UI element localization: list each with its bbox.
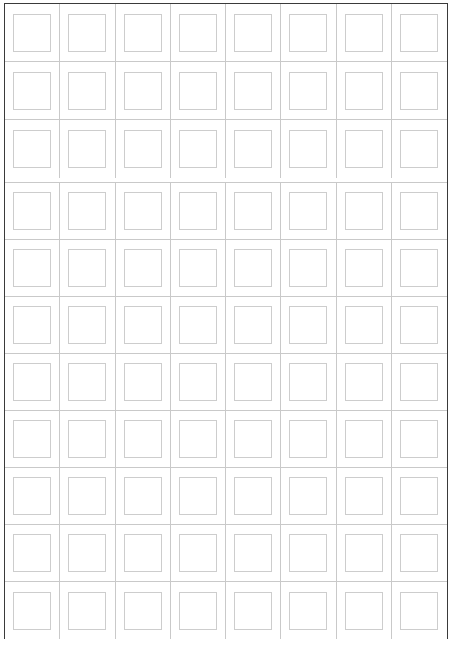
grid-cell[interactable] — [281, 120, 336, 178]
grid-cell[interactable] — [60, 468, 115, 525]
grid-cell[interactable] — [281, 468, 336, 525]
cell-placeholder-square[interactable] — [289, 420, 327, 458]
cell-placeholder-square[interactable] — [234, 477, 272, 515]
cell-placeholder-square[interactable] — [234, 534, 272, 572]
grid-cell[interactable] — [5, 525, 60, 582]
grid-cell[interactable] — [337, 354, 392, 411]
cell-placeholder-square[interactable] — [124, 477, 162, 515]
cell-placeholder-square[interactable] — [13, 420, 51, 458]
grid-cell[interactable] — [116, 297, 171, 354]
grid-cell[interactable] — [281, 582, 336, 639]
cell-placeholder-square[interactable] — [400, 420, 438, 458]
grid-cell[interactable] — [337, 411, 392, 468]
cell-placeholder-square[interactable] — [179, 14, 217, 52]
grid-cell[interactable] — [5, 4, 60, 62]
cell-placeholder-square[interactable] — [345, 592, 383, 630]
cell-placeholder-square[interactable] — [345, 534, 383, 572]
cell-placeholder-square[interactable] — [234, 72, 272, 110]
grid-cell[interactable] — [171, 468, 226, 525]
grid-cell[interactable] — [337, 120, 392, 178]
cell-placeholder-square[interactable] — [124, 306, 162, 344]
grid-cell[interactable] — [116, 411, 171, 468]
cell-placeholder-square[interactable] — [289, 534, 327, 572]
cell-placeholder-square[interactable] — [400, 477, 438, 515]
cell-placeholder-square[interactable] — [289, 363, 327, 401]
grid-cell[interactable] — [392, 183, 447, 240]
grid-cell[interactable] — [171, 525, 226, 582]
grid-cell[interactable] — [5, 240, 60, 297]
cell-placeholder-square[interactable] — [179, 249, 217, 287]
cell-placeholder-square[interactable] — [345, 14, 383, 52]
cell-placeholder-square[interactable] — [13, 534, 51, 572]
cell-placeholder-square[interactable] — [234, 306, 272, 344]
grid-cell[interactable] — [171, 297, 226, 354]
grid-cell[interactable] — [392, 411, 447, 468]
grid-cell[interactable] — [60, 297, 115, 354]
cell-placeholder-square[interactable] — [234, 14, 272, 52]
cell-placeholder-square[interactable] — [179, 72, 217, 110]
grid-cell[interactable] — [226, 297, 281, 354]
cell-placeholder-square[interactable] — [234, 420, 272, 458]
grid-cell[interactable] — [171, 120, 226, 178]
grid-cell[interactable] — [116, 468, 171, 525]
cell-placeholder-square[interactable] — [289, 192, 327, 230]
grid-cell[interactable] — [337, 297, 392, 354]
cell-placeholder-square[interactable] — [124, 72, 162, 110]
cell-placeholder-square[interactable] — [68, 249, 106, 287]
grid-cell[interactable] — [337, 183, 392, 240]
grid-cell[interactable] — [226, 354, 281, 411]
grid-cell[interactable] — [60, 183, 115, 240]
grid-cell[interactable] — [226, 62, 281, 120]
cell-placeholder-square[interactable] — [13, 306, 51, 344]
grid-cell[interactable] — [60, 62, 115, 120]
grid-cell[interactable] — [116, 4, 171, 62]
cell-placeholder-square[interactable] — [179, 534, 217, 572]
grid-cell[interactable] — [226, 4, 281, 62]
cell-placeholder-square[interactable] — [68, 14, 106, 52]
grid-cell[interactable] — [116, 240, 171, 297]
cell-placeholder-square[interactable] — [289, 592, 327, 630]
cell-placeholder-square[interactable] — [124, 592, 162, 630]
cell-placeholder-square[interactable] — [13, 130, 51, 168]
cell-placeholder-square[interactable] — [234, 130, 272, 168]
grid-cell[interactable] — [392, 354, 447, 411]
cell-placeholder-square[interactable] — [13, 192, 51, 230]
grid-cell[interactable] — [60, 354, 115, 411]
cell-placeholder-square[interactable] — [68, 420, 106, 458]
cell-placeholder-square[interactable] — [179, 306, 217, 344]
grid-cell[interactable] — [171, 582, 226, 639]
grid-cell[interactable] — [337, 525, 392, 582]
cell-placeholder-square[interactable] — [400, 14, 438, 52]
cell-placeholder-square[interactable] — [13, 249, 51, 287]
grid-cell[interactable] — [392, 582, 447, 639]
grid-cell[interactable] — [60, 582, 115, 639]
cell-placeholder-square[interactable] — [13, 363, 51, 401]
grid-cell[interactable] — [5, 120, 60, 178]
cell-placeholder-square[interactable] — [345, 363, 383, 401]
cell-placeholder-square[interactable] — [68, 363, 106, 401]
cell-placeholder-square[interactable] — [68, 592, 106, 630]
cell-placeholder-square[interactable] — [345, 420, 383, 458]
grid-cell[interactable] — [171, 62, 226, 120]
grid-cell[interactable] — [171, 411, 226, 468]
grid-cell[interactable] — [392, 4, 447, 62]
cell-placeholder-square[interactable] — [289, 72, 327, 110]
grid-cell[interactable] — [60, 4, 115, 62]
grid-cell[interactable] — [5, 468, 60, 525]
grid-cell[interactable] — [116, 62, 171, 120]
grid-cell[interactable] — [392, 120, 447, 178]
cell-placeholder-square[interactable] — [400, 192, 438, 230]
cell-placeholder-square[interactable] — [68, 192, 106, 230]
cell-placeholder-square[interactable] — [124, 192, 162, 230]
grid-cell[interactable] — [392, 297, 447, 354]
cell-placeholder-square[interactable] — [345, 72, 383, 110]
cell-placeholder-square[interactable] — [179, 192, 217, 230]
grid-cell[interactable] — [281, 297, 336, 354]
grid-cell[interactable] — [392, 240, 447, 297]
cell-placeholder-square[interactable] — [400, 130, 438, 168]
grid-cell[interactable] — [226, 468, 281, 525]
cell-placeholder-square[interactable] — [289, 130, 327, 168]
cell-placeholder-square[interactable] — [13, 14, 51, 52]
cell-placeholder-square[interactable] — [124, 363, 162, 401]
cell-placeholder-square[interactable] — [289, 477, 327, 515]
